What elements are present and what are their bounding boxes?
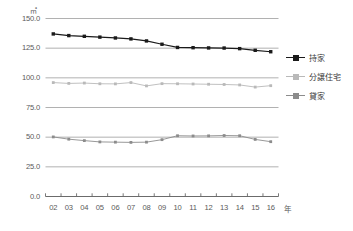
data-point-marker [114,82,117,85]
data-point-marker [161,82,164,85]
x-axis-tick: 05 [92,203,108,212]
legend-item-3[interactable]: 貸家 [286,86,352,105]
series-3 [52,134,272,144]
chart-legend: 持家分譲住宅貸家 [286,48,352,105]
y-axis-tick: 75.0 [6,103,40,112]
x-axis-tick: 14 [232,203,248,212]
gridlines [46,19,279,167]
data-point-marker [192,135,195,138]
data-series-layer [52,32,273,144]
x-axis-tick: 02 [45,203,61,212]
data-point-marker [176,46,179,49]
data-point-marker [176,134,179,137]
legend-label: 貸家 [309,90,325,101]
x-axis-tick: 07 [123,203,139,212]
data-point-marker [67,82,70,85]
x-axis-tick: 06 [107,203,123,212]
data-point-marker [129,37,132,40]
data-point-marker [67,138,70,141]
data-point-marker [67,34,70,37]
x-axis-tick: 09 [154,203,170,212]
x-axis-label: 年 [284,203,292,214]
data-point-marker [52,32,55,35]
data-point-marker [223,83,226,86]
data-point-marker [161,138,164,141]
data-point-marker [52,81,55,84]
data-point-marker [145,85,148,88]
data-point-marker [191,46,194,49]
chart-container: ㎡ 0.025.050.075.0100.0125.0150.0 0203040… [0,0,353,231]
y-axis-tick: 150.0 [6,14,40,23]
data-point-marker [176,82,179,85]
data-point-marker [238,47,241,50]
legend-item-1[interactable]: 持家 [286,48,352,67]
legend-swatch-icon [286,91,305,100]
legend-swatch-icon [286,53,305,62]
data-point-marker [145,39,148,42]
data-point-marker [52,136,55,139]
data-point-marker [207,46,210,49]
x-axis-tick: 11 [185,203,201,212]
y-axis-tick: 50.0 [6,132,40,141]
data-point-marker [269,140,272,143]
legend-label: 持家 [309,52,325,63]
data-point-marker [192,83,195,86]
axis-lines [46,193,279,196]
data-point-marker [83,82,86,85]
data-point-marker [98,35,101,38]
data-point-marker [130,141,133,144]
x-axis-tick: 12 [201,203,217,212]
x-axis-tick: 15 [247,203,263,212]
data-point-marker [145,141,148,144]
data-point-marker [222,46,225,49]
series-1 [52,32,273,53]
x-axis-tick: 08 [138,203,154,212]
y-axis-tick: 25.0 [6,162,40,171]
data-point-marker [269,84,272,87]
data-point-marker [254,138,257,141]
data-point-marker [98,141,101,144]
x-axis-tick: 04 [76,203,92,212]
data-point-marker [223,134,226,137]
data-point-marker [269,50,272,53]
data-point-marker [160,43,163,46]
data-point-marker [207,83,210,86]
series-2 [52,81,272,88]
data-point-marker [254,86,257,89]
x-axis-tick: 03 [61,203,77,212]
data-point-marker [114,141,117,144]
data-point-marker [114,36,117,39]
data-point-marker [254,49,257,52]
x-axis-tick: 10 [170,203,186,212]
data-point-marker [83,35,86,38]
data-point-marker [130,81,133,84]
y-axis-tick: 0.0 [6,192,40,201]
data-point-marker [238,134,241,137]
legend-label: 分譲住宅 [309,71,341,82]
y-axis-tick: 100.0 [6,73,40,82]
x-axis-tick: 13 [216,203,232,212]
data-point-marker [238,84,241,87]
y-axis-tick: 125.0 [6,43,40,52]
legend-swatch-icon [286,72,305,81]
x-axis-tick: 16 [263,203,279,212]
chart-plot-area [0,0,353,231]
data-point-marker [207,134,210,137]
data-point-marker [83,139,86,142]
legend-item-2[interactable]: 分譲住宅 [286,67,352,86]
data-point-marker [98,82,101,85]
